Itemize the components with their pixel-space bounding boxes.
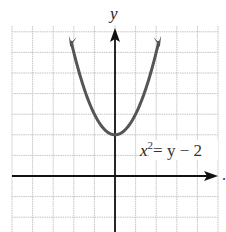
trailing-period: . (222, 166, 226, 183)
equation-rest: = y − 2 (153, 141, 202, 160)
graph-canvas: y x2= y − 2 . (0, 0, 226, 232)
y-axis-label: y (108, 4, 118, 23)
equation-label: x2= y − 2 (139, 139, 202, 160)
